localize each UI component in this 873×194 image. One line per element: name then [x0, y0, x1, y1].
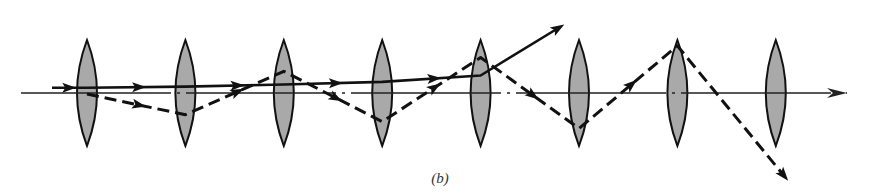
solid-ray-arrow [550, 20, 567, 36]
lens-waveguide-diagram: (b) [0, 0, 873, 194]
diagram-stage: (b) [0, 0, 873, 194]
dashed-ray-arrow [775, 167, 792, 184]
figure-caption: (b) [431, 170, 449, 187]
